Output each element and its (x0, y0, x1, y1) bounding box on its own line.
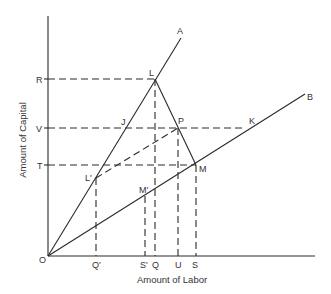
point-label-p: P (178, 116, 184, 126)
point-label-m: M (199, 164, 207, 174)
isoquant-diagram: A B R V T O Q' S' Q U S L J P K L' M' M … (0, 0, 331, 294)
ray-b-label: B (307, 92, 313, 102)
x-label-qprime: Q' (92, 260, 101, 270)
point-label-k: K (249, 116, 255, 126)
x-axis-title: Amount of Labor (137, 274, 207, 285)
point-label-mprime: M' (139, 185, 148, 195)
point-label-l: L (149, 68, 154, 78)
point-label-j: J (121, 117, 126, 127)
dashed-line-lprime-p (96, 128, 178, 178)
origin-label: O (39, 255, 46, 265)
x-label-s: S (192, 260, 198, 270)
line-l-m (155, 79, 196, 165)
x-label-u: U (175, 260, 182, 270)
point-label-lprime: L' (85, 173, 92, 183)
y-label-r: R (36, 75, 43, 85)
y-label-v: V (36, 124, 42, 134)
ray-a-label: A (177, 26, 183, 36)
y-label-t: T (37, 161, 43, 171)
ray-a (48, 38, 181, 256)
x-label-sprime: S' (140, 260, 148, 270)
y-axis-title: Amount of Capital (17, 102, 28, 178)
x-label-q: Q (152, 260, 159, 270)
